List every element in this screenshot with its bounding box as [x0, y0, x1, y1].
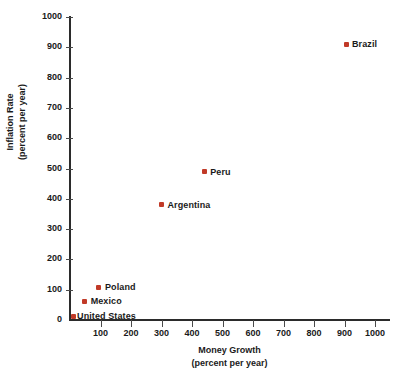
y-tick-mark	[66, 290, 73, 291]
data-point-label: Argentina	[168, 200, 211, 210]
y-tick-mark	[66, 199, 73, 200]
y-axis-title-units: (percent per year)	[16, 47, 28, 197]
data-point-label: Mexico	[91, 296, 122, 306]
y-axis-title-main: Inflation Rate	[4, 47, 16, 197]
y-tick-mark	[66, 17, 73, 18]
x-tick-mark	[345, 320, 346, 327]
y-tick-mark	[66, 108, 73, 109]
data-point-marker	[71, 314, 76, 319]
data-point-marker	[96, 285, 101, 290]
x-tick-mark	[375, 320, 376, 327]
y-tick-label: 300	[0, 223, 62, 233]
y-tick-mark	[66, 169, 73, 170]
x-axis-title-main: Money Growth	[69, 344, 390, 357]
x-tick-mark	[162, 320, 163, 327]
scatter-chart-figure: 01002003004005006007008009001000 1002003…	[0, 0, 396, 373]
y-tick-label: 0	[0, 314, 62, 324]
y-tick-label: 100	[0, 284, 62, 294]
x-tick-mark	[314, 320, 315, 327]
x-tick-mark	[253, 320, 254, 327]
data-point-marker	[82, 299, 87, 304]
y-tick-mark	[66, 229, 73, 230]
y-tick-mark	[66, 78, 73, 79]
x-tick-mark	[101, 320, 102, 327]
x-tick-label: 1000	[355, 328, 395, 338]
y-tick-mark	[66, 47, 73, 48]
data-point-label: United States	[77, 311, 136, 321]
x-tick-mark	[192, 320, 193, 327]
y-tick-mark	[66, 259, 73, 260]
x-tick-mark	[284, 320, 285, 327]
data-point-marker	[344, 42, 349, 47]
data-point-label: Peru	[210, 167, 230, 177]
y-tick-label: 200	[0, 253, 62, 263]
data-point-label: Poland	[105, 282, 136, 292]
x-tick-mark	[223, 320, 224, 327]
x-axis-title-units: (percent per year)	[69, 357, 390, 370]
y-tick-label: 1000	[0, 11, 62, 21]
y-axis-title: Inflation Rate (percent per year)	[4, 47, 28, 197]
y-tick-mark	[66, 138, 73, 139]
x-axis-title: Money Growth (percent per year)	[69, 344, 390, 370]
data-point-marker	[202, 169, 207, 174]
x-tick-mark	[131, 320, 132, 327]
data-point-marker	[159, 202, 164, 207]
data-point-label: Brazil	[352, 39, 377, 49]
